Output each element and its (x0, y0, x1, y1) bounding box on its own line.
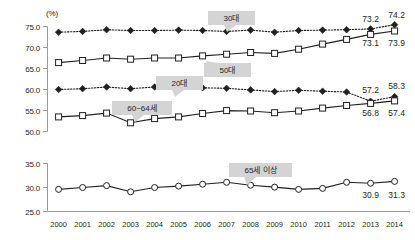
x-tick-label-2004: 2004 (146, 220, 163, 229)
value-label-20dae-2014: 58.3 (388, 81, 405, 91)
value-label-60to64-2014: 57.4 (388, 108, 405, 118)
y-tick-label-25: 25.0 (25, 208, 41, 217)
y-tick-label-35: 35.0 (25, 160, 41, 169)
series-50dae: 73.1 73.9 (56, 28, 406, 66)
x-tick-label-2012: 2012 (338, 220, 355, 229)
x-axis-labels: 2000 2001 2002 2003 2004 2005 2006 2007 … (50, 220, 403, 229)
annotation-30dae: 30대 (208, 11, 255, 32)
y-tick-label-55: 55.0 (25, 107, 41, 116)
x-tick-label-2009: 2009 (266, 220, 283, 229)
annotation-60to64-label: 60~64세 (127, 104, 156, 113)
y-tick-label-50: 50.0 (25, 128, 41, 137)
x-tick-label-2008: 2008 (242, 220, 259, 229)
series-60to64: 56.8 57.4 (56, 98, 406, 126)
x-tick-label-2013: 2013 (362, 220, 379, 229)
value-label-30dae-2014: 74.2 (388, 10, 405, 20)
annotation-30dae-label: 30대 (224, 14, 240, 23)
series-60to64-markers (56, 98, 398, 126)
annotation-20dae: 20대 (156, 76, 203, 97)
y-tick-label-60: 60.0 (25, 86, 41, 95)
upper-panel-axis: 75.0 70.0 65.0 60.0 55.0 50.0 (25, 23, 47, 137)
series-20dae: 57.2 58.3 (55, 81, 405, 105)
y-axis-unit-label: (%) (46, 9, 58, 18)
y-tick-label-65: 65.0 (25, 65, 41, 74)
series-65plus-markers (56, 178, 398, 194)
annotation-50dae: 50대 (204, 61, 251, 77)
x-tick-label-2010: 2010 (290, 220, 307, 229)
y-tick-label-30: 30.0 (25, 184, 41, 193)
value-label-50dae-2013: 73.1 (362, 38, 379, 48)
annotation-20dae-label: 20대 (172, 79, 188, 88)
annotation-65plus: 65세 이상 (229, 163, 292, 185)
annotation-20dae-tail (172, 90, 184, 97)
x-tick-label-2006: 2006 (194, 220, 211, 229)
line-chart: 75.0 70.0 65.0 60.0 55.0 50.0 35.0 30.0 … (0, 0, 415, 240)
x-tick-label-2007: 2007 (218, 220, 235, 229)
x-tick-label-2011: 2011 (315, 220, 331, 229)
value-label-65plus-2014: 31.3 (388, 190, 405, 200)
value-label-20dae-2013: 57.2 (362, 85, 379, 95)
y-tick-label-70: 70.0 (25, 44, 41, 53)
annotation-65plus-label: 65세 이상 (244, 165, 277, 175)
x-tick-label-2003: 2003 (122, 220, 139, 229)
chart-container: 75.0 70.0 65.0 60.0 55.0 50.0 35.0 30.0 … (0, 0, 415, 240)
x-tick-label-2000: 2000 (50, 220, 67, 229)
series-20dae-markers (55, 83, 398, 104)
series-65plus: 30.9 31.3 (56, 178, 406, 199)
x-tick-label-2002: 2002 (98, 220, 115, 229)
annotation-50dae-label: 50대 (220, 66, 236, 75)
value-label-30dae-2013: 73.2 (362, 14, 379, 24)
y-tick-label-75: 75.0 (25, 23, 41, 32)
value-label-65plus-2013: 30.9 (362, 190, 379, 200)
value-label-50dae-2014: 73.9 (388, 38, 405, 48)
x-tick-label-2001: 2001 (74, 220, 91, 229)
x-tick-label-2005: 2005 (170, 220, 187, 229)
value-label-60to64-2013: 56.8 (362, 108, 379, 118)
x-tick-label-2014: 2014 (386, 220, 403, 229)
